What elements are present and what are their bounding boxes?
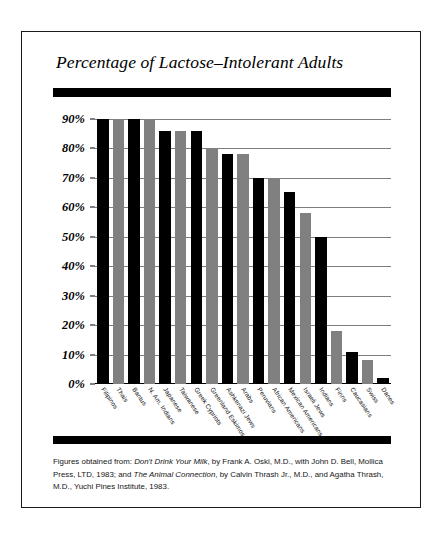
bar[interactable] xyxy=(175,131,187,384)
footnote-rule xyxy=(53,436,391,444)
bar-column[interactable] xyxy=(282,104,298,384)
bar-column[interactable] xyxy=(157,104,173,384)
bar[interactable] xyxy=(113,119,125,384)
y-axis-tick-label: 40% xyxy=(62,259,85,274)
footnote-source-2: The Animal Connection xyxy=(134,470,216,479)
bar[interactable] xyxy=(144,119,156,384)
bar-column[interactable] xyxy=(375,104,391,384)
bar[interactable] xyxy=(346,352,358,384)
bar[interactable] xyxy=(253,178,265,384)
bar[interactable] xyxy=(268,178,280,384)
bar[interactable] xyxy=(206,148,218,384)
bar[interactable] xyxy=(128,119,140,384)
y-axis-tick-label: 70% xyxy=(62,170,85,185)
chart-frame: Percentage of Lactose–Intolerant Adults … xyxy=(21,31,421,508)
x-axis-label: Arabs xyxy=(240,386,255,404)
bar[interactable] xyxy=(159,131,171,384)
bar[interactable] xyxy=(377,378,389,384)
bar-column[interactable] xyxy=(313,104,329,384)
x-axis-label: Swiss xyxy=(365,386,380,404)
footnote-source-1: Don't Drink Your Milk xyxy=(134,457,207,466)
bar-column[interactable] xyxy=(329,104,345,384)
bar-series xyxy=(95,104,391,384)
page-title: Percentage of Lactose–Intolerant Adults xyxy=(56,52,343,73)
bar-column[interactable] xyxy=(360,104,376,384)
bar-column[interactable] xyxy=(173,104,189,384)
y-axis-tick-label: 80% xyxy=(62,141,85,156)
bar-column[interactable] xyxy=(220,104,236,384)
bar-column[interactable] xyxy=(188,104,204,384)
x-axis-label: Danes xyxy=(381,386,397,406)
bar[interactable] xyxy=(331,331,343,384)
bar-column[interactable] xyxy=(126,104,142,384)
bar-column[interactable] xyxy=(111,104,127,384)
bar-column[interactable] xyxy=(266,104,282,384)
y-axis-tick-label: 0% xyxy=(68,377,85,392)
bar[interactable] xyxy=(237,154,249,384)
bar-column[interactable] xyxy=(235,104,251,384)
y-axis-tick-label: 10% xyxy=(62,347,85,362)
bar[interactable] xyxy=(300,213,312,384)
y-axis-tick-label: 60% xyxy=(62,200,85,215)
bar[interactable] xyxy=(284,192,296,384)
x-axis-label: Finns xyxy=(334,386,349,403)
footnote: Figures obtained from: Don't Drink Your … xyxy=(53,456,398,494)
bar[interactable] xyxy=(191,131,203,384)
x-axis-label: Thais xyxy=(116,386,131,403)
title-rule xyxy=(53,88,391,97)
y-axis-tick-label: 30% xyxy=(62,288,85,303)
bar-column[interactable] xyxy=(95,104,111,384)
bar[interactable] xyxy=(222,154,234,384)
bar-column[interactable] xyxy=(142,104,158,384)
y-axis: 0%10%20%30%40%50%60%70%80%90% xyxy=(53,104,90,384)
bar[interactable] xyxy=(97,119,109,384)
bar-column[interactable] xyxy=(204,104,220,384)
plot-area: 0%10%20%30%40%50%60%70%80%90% FilipinosT… xyxy=(53,104,391,404)
chart-page: Percentage of Lactose–Intolerant Adults … xyxy=(0,0,443,538)
y-axis-tick-label: 20% xyxy=(62,318,85,333)
y-axis-tick-label: 90% xyxy=(62,111,85,126)
footnote-intro: Figures obtained from: xyxy=(53,457,134,466)
bar-column[interactable] xyxy=(298,104,314,384)
y-axis-tick-label: 50% xyxy=(62,229,85,244)
bar-column[interactable] xyxy=(251,104,267,384)
bar-column[interactable] xyxy=(344,104,360,384)
bar[interactable] xyxy=(315,237,327,384)
bar[interactable] xyxy=(362,360,374,384)
